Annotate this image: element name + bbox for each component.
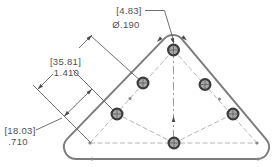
hole-pattern-centerlines (90, 50, 257, 143)
centerline-arrow (172, 116, 176, 122)
dim-single-pitch-metric: [18.03] (4, 125, 35, 136)
part-outline (64, 35, 269, 159)
vertical-centerline (172, 50, 176, 143)
dim-double-pitch-metric: [35.81] (50, 56, 81, 67)
leader-arrow (171, 38, 175, 44)
extension-lines (33, 36, 143, 142)
hole-low-right (228, 109, 239, 120)
hole-pattern (112, 45, 239, 149)
hole-callout-diameter: Ø.190 (112, 19, 139, 30)
hole-mid-left (138, 78, 149, 89)
hole-mid-right (200, 79, 211, 90)
hole-low-left (112, 109, 123, 120)
dim-double-pitch-imperial: 1.410 (54, 67, 79, 78)
pattern-vertex-dots (88, 97, 259, 161)
hole-callout-metric: [4.83] (116, 5, 142, 16)
technical-drawing: [4.83] Ø.190 [35.81] 1.410 [18.03] .710 (0, 0, 277, 167)
dim-single-pitch-imperial: .710 (8, 136, 28, 147)
drawing-canvas: [4.83] Ø.190 [35.81] 1.410 [18.03] .710 (0, 0, 277, 167)
hole-top (168, 45, 179, 56)
hole-bottom (169, 138, 180, 149)
